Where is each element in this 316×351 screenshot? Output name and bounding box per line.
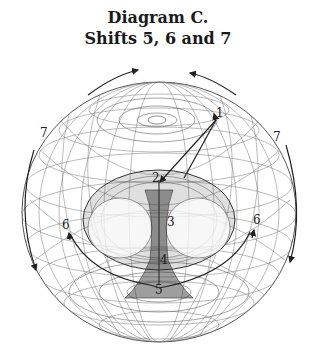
toroidal-sphere-diagram: 1 2 3 4 5 6 6 7 7 — [0, 0, 316, 351]
top-vortex — [97, 98, 217, 142]
label-6-right: 6 — [253, 213, 261, 227]
label-4: 4 — [160, 253, 168, 267]
label-7-left: 7 — [40, 126, 48, 140]
label-5: 5 — [155, 283, 163, 297]
label-1: 1 — [216, 106, 224, 120]
label-6-left: 6 — [62, 218, 70, 232]
label-2: 2 — [152, 171, 160, 185]
inner-torus — [83, 170, 235, 298]
label-3: 3 — [167, 215, 175, 229]
label-7-right: 7 — [273, 130, 281, 144]
